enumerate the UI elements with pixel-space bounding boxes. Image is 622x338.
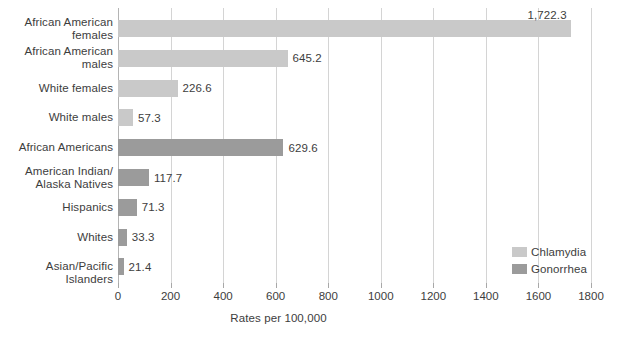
- x-tick-mark: [223, 283, 224, 288]
- category-label: American Indian/Alaska Natives: [0, 165, 113, 191]
- x-tick-label: 0: [115, 290, 121, 302]
- bar-row: 117.7: [118, 169, 219, 186]
- bar-gonorrhea: [118, 139, 283, 156]
- bar-row: 71.3: [118, 199, 207, 216]
- x-tick-mark: [118, 283, 119, 288]
- bar-value-label: 117.7: [154, 172, 182, 184]
- category-label-line: Hispanics: [0, 201, 113, 214]
- bar-gonorrhea: [118, 258, 124, 275]
- bar-chart: African AmericanfemalesAfrican Americanm…: [0, 0, 622, 338]
- x-tick-mark: [276, 283, 277, 288]
- category-label-line: African American: [0, 45, 113, 58]
- category-label-line: African American: [0, 16, 113, 29]
- legend-item-chlamydia[interactable]: Chlamydia: [512, 245, 587, 259]
- bar-gonorrhea: [118, 229, 127, 246]
- bar-row: 1,722.3: [118, 20, 622, 37]
- bar-value-label: 21.4: [129, 261, 152, 273]
- legend-label: Gonorrhea: [531, 263, 587, 275]
- bar-row: 33.3: [118, 229, 197, 246]
- category-label-line: Alaska Natives: [0, 178, 113, 191]
- bar-value-label: 645.2: [293, 52, 322, 64]
- category-label: White females: [0, 82, 113, 95]
- bar-value-label: 629.6: [288, 142, 317, 154]
- category-label: White males: [0, 111, 113, 124]
- x-tick-label: 1400: [473, 290, 499, 302]
- x-tick-mark: [433, 283, 434, 288]
- x-tick-label: 1600: [526, 290, 552, 302]
- category-label-line: Asian/Pacific Islanders: [0, 260, 113, 286]
- category-label: African Americanfemales: [0, 16, 113, 42]
- x-tick-mark: [171, 283, 172, 288]
- bar-row: 21.4: [118, 258, 194, 275]
- bar-value-label: 33.3: [132, 231, 155, 243]
- category-label: African Americans: [0, 141, 113, 154]
- bar-value-label: 71.3: [142, 201, 165, 213]
- category-label-line: White males: [0, 111, 113, 124]
- x-axis-title-text: Rates per 100,000: [230, 312, 326, 324]
- category-label-line: White females: [0, 82, 113, 95]
- bar-row: 629.6: [118, 139, 353, 156]
- category-label-line: males: [0, 58, 113, 71]
- category-label-line: American Indian/: [0, 165, 113, 178]
- bar-chlamydia: [118, 50, 288, 67]
- x-axis-title: Rates per 100,000: [0, 312, 622, 324]
- x-tick-label: 600: [266, 290, 285, 302]
- category-label-line: African Americans: [0, 141, 113, 154]
- bar-row: 226.6: [118, 80, 248, 97]
- bar-chlamydia: [118, 80, 178, 97]
- legend-swatch-icon: [512, 247, 527, 257]
- category-label: African Americanmales: [0, 45, 113, 71]
- legend: ChlamydiaGonorrhea: [512, 245, 587, 279]
- x-tick-label: 1800: [578, 290, 604, 302]
- bar-value-label: 57.3: [138, 112, 161, 124]
- category-label-line: Whites: [0, 231, 113, 244]
- category-label: Hispanics: [0, 201, 113, 214]
- bar-gonorrhea: [118, 199, 137, 216]
- bar-value-label: 1,722.3: [528, 9, 567, 21]
- legend-item-gonorrhea[interactable]: Gonorrhea: [512, 262, 587, 276]
- bar-chlamydia: [118, 20, 571, 37]
- x-tick-mark: [538, 283, 539, 288]
- category-label: Whites: [0, 231, 113, 244]
- x-tick-label: 200: [161, 290, 180, 302]
- x-tick-label: 400: [214, 290, 233, 302]
- category-axis-labels: African AmericanfemalesAfrican Americanm…: [0, 0, 113, 290]
- bar-gonorrhea: [118, 169, 149, 186]
- bar-row: 57.3: [118, 109, 203, 126]
- x-tick-mark: [591, 283, 592, 288]
- x-tick-mark: [381, 283, 382, 288]
- category-label: Asian/Pacific Islanders: [0, 260, 113, 286]
- x-tick-label: 1200: [421, 290, 447, 302]
- legend-label: Chlamydia: [531, 246, 586, 258]
- x-tick-mark: [486, 283, 487, 288]
- x-tick-label: 800: [319, 290, 338, 302]
- x-tick-mark: [328, 283, 329, 288]
- category-label-line: females: [0, 29, 113, 42]
- legend-swatch-icon: [512, 264, 527, 274]
- bar-row: 645.2: [118, 50, 358, 67]
- x-axis: 020040060080010001200140016001800: [118, 283, 591, 305]
- bar-value-label: 226.6: [183, 82, 212, 94]
- bar-chlamydia: [118, 109, 133, 126]
- x-tick-label: 1000: [368, 290, 394, 302]
